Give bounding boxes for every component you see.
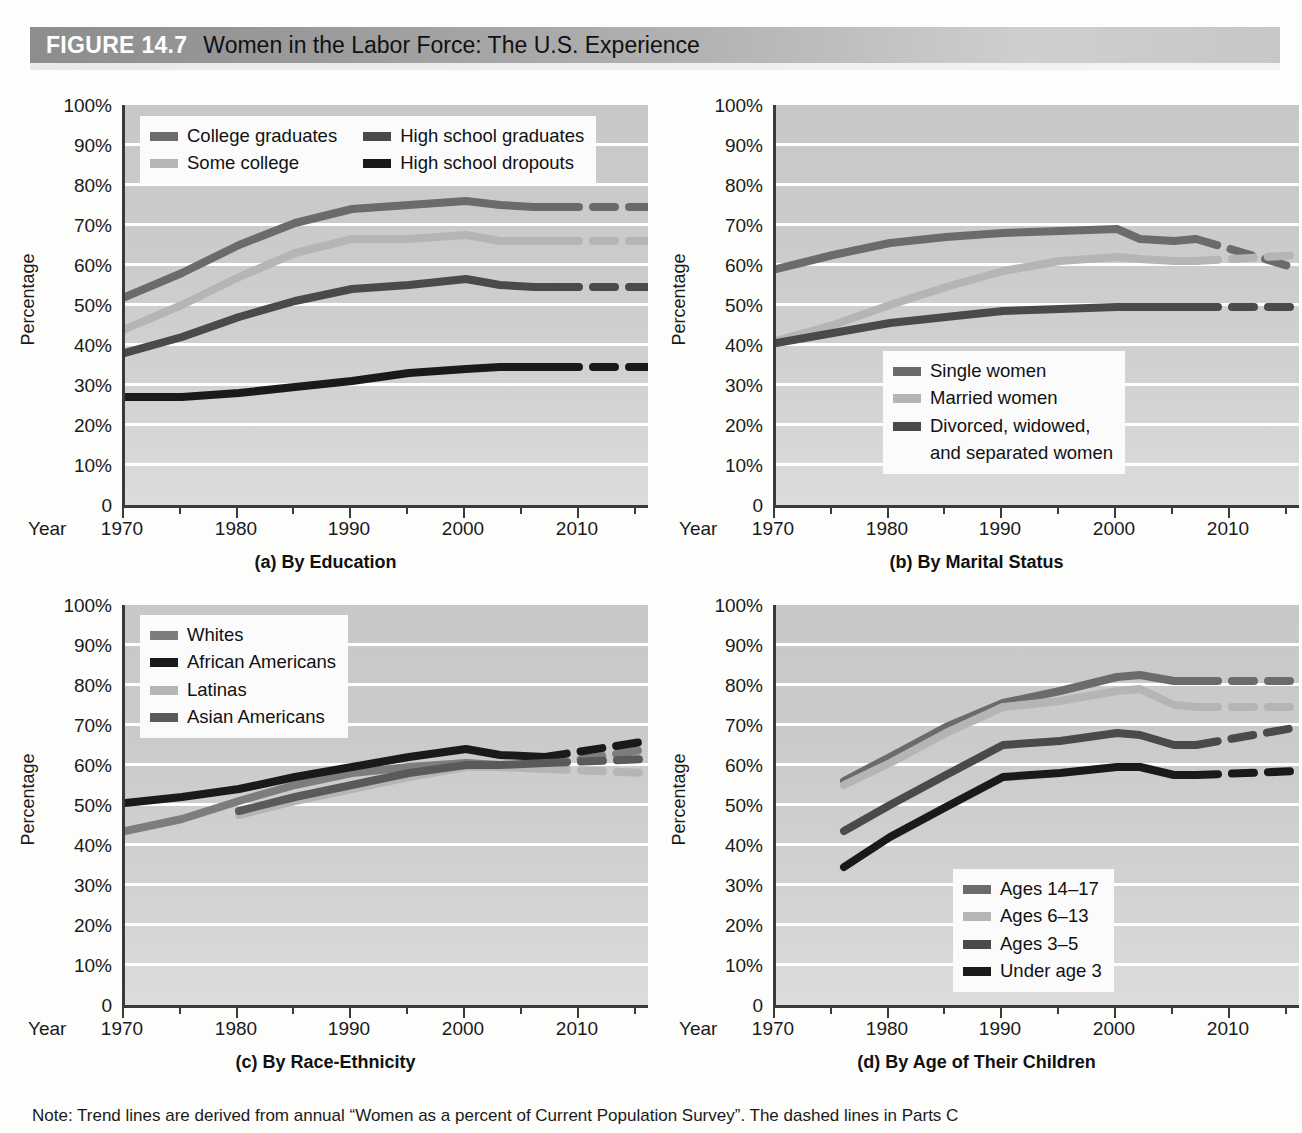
y-tick-a-40: 40%	[38, 335, 112, 357]
y-tick-d-10: 10%	[689, 955, 763, 977]
legend-item-college-graduates[interactable]: College graduates	[150, 124, 337, 148]
legend-item-latinas[interactable]: Latinas	[150, 678, 336, 702]
x-tickmark-c-1990	[349, 1005, 351, 1018]
x-tickmark-d-2015	[1285, 1005, 1287, 1014]
y-tick-b-100: 100%	[689, 95, 763, 117]
legend-item-ages-14-17[interactable]: Ages 14–17	[963, 877, 1102, 901]
x-tickmark-a-2015	[634, 505, 636, 514]
legend-swatch-ages-6-13	[963, 912, 991, 921]
x-tickmark-d-2005	[1171, 1005, 1173, 1014]
y-tick-a-10: 10%	[38, 455, 112, 477]
x-tick-d-1980: 1980	[852, 1018, 922, 1040]
y-tick-a-50: 50%	[38, 295, 112, 317]
legend-label-under-age-3: Under age 3	[1000, 959, 1102, 983]
x-tickmark-a-2000	[463, 505, 465, 518]
y-axis-label-d: Percentage	[669, 730, 690, 870]
x-tickmark-c-2010	[577, 1005, 579, 1018]
panel-caption-d: (d) By Age of Their Children	[651, 1052, 1302, 1073]
y-tick-d-70: 70%	[689, 715, 763, 737]
x-tickmark-d-2010	[1228, 1005, 1230, 1018]
legend-swatch-divorced-widowed-separated	[893, 422, 921, 431]
gridlines-a	[125, 143, 648, 466]
y-tick-b-20: 20%	[689, 415, 763, 437]
x-tick-c-2010: 2010	[542, 1018, 612, 1040]
x-tickmark-d-1980	[887, 1005, 889, 1018]
y-tick-d-0: 0	[689, 995, 763, 1017]
legend-swatch-some-college	[150, 159, 178, 168]
legend-label-ages-3-5: Ages 3–5	[1000, 932, 1078, 956]
x-tick-c-1990: 1990	[314, 1018, 384, 1040]
x-tick-a-1990: 1990	[314, 518, 384, 540]
y-axis-label-a: Percentage	[18, 230, 39, 370]
y-axis-label-b: Percentage	[669, 230, 690, 370]
x-tickmark-a-1970	[122, 505, 124, 518]
x-tick-a-1980: 1980	[201, 518, 271, 540]
legend-item-high-school-graduates[interactable]: High school graduates	[363, 124, 584, 148]
y-tick-b-80: 80%	[689, 175, 763, 197]
x-tick-a-2000: 2000	[428, 518, 498, 540]
y-tick-a-100: 100%	[38, 95, 112, 117]
y-tick-c-30: 30%	[38, 875, 112, 897]
legend-item-ages-3-5[interactable]: Ages 3–5	[963, 932, 1102, 956]
y-tick-d-60: 60%	[689, 755, 763, 777]
legend-swatch-latinas	[150, 686, 178, 695]
legend-panel-d: Ages 14–17 Ages 6–13 Ages 3–5 Under age …	[953, 869, 1114, 992]
legend-item-single-women[interactable]: Single women	[893, 359, 1113, 383]
y-tick-c-50: 50%	[38, 795, 112, 817]
y-tick-c-70: 70%	[38, 715, 112, 737]
legend-column-left-a: College graduates Some college	[150, 124, 337, 176]
legend-swatch-high-school-dropouts	[363, 159, 391, 168]
figure-note: Note: Trend lines are derived from annua…	[32, 1104, 1282, 1133]
y-tick-d-80: 80%	[689, 675, 763, 697]
legend-label-high-school-dropouts: High school dropouts	[400, 151, 574, 175]
legend-label-african-americans: African Americans	[187, 650, 336, 674]
x-tickmark-a-1985	[292, 505, 294, 514]
panels-grid: Percentage 100% 90% 80% 70% 60% 50% 40% …	[0, 74, 1302, 1074]
panel-d-by-age-of-children: Percentage 100% 90% 80% 70% 60% 50% 40% …	[651, 574, 1302, 1074]
legend-item-high-school-dropouts[interactable]: High school dropouts	[363, 151, 584, 175]
x-tickmark-b-1975	[830, 505, 832, 514]
y-tick-b-90: 90%	[689, 135, 763, 157]
x-tickmark-b-2015	[1285, 505, 1287, 514]
panel-b-by-marital-status: Percentage 100% 90% 80% 70% 60% 50% 40% …	[651, 74, 1302, 574]
legend-item-some-college[interactable]: Some college	[150, 151, 337, 175]
panel-c-by-race-ethnicity: Percentage 100% 90% 80% 70% 60% 50% 40% …	[0, 574, 651, 1074]
legend-label-divorced-widowed-separated: Divorced, widowed,	[930, 414, 1090, 438]
legend-item-divorced-widowed-separated[interactable]: Divorced, widowed,	[893, 414, 1113, 438]
legend-item-under-age-3[interactable]: Under age 3	[963, 959, 1102, 983]
legend-column-right-a: High school graduates High school dropou…	[363, 124, 584, 176]
y-tick-d-100: 100%	[689, 595, 763, 617]
y-tick-a-60: 60%	[38, 255, 112, 277]
y-tick-b-30: 30%	[689, 375, 763, 397]
legend-label-latinas: Latinas	[187, 678, 247, 702]
x-tickmark-b-2000	[1114, 505, 1116, 518]
legend-swatch-under-age-3	[963, 967, 991, 976]
figure-container: FIGURE 14.7 Women in the Labor Force: Th…	[0, 0, 1302, 1133]
legend-item-asian-americans[interactable]: Asian Americans	[150, 705, 336, 729]
series-d-under-age-3	[844, 767, 1299, 867]
legend-item-african-americans[interactable]: African Americans	[150, 650, 336, 674]
x-axis-label-c: Year	[28, 1018, 66, 1040]
y-tick-c-20: 20%	[38, 915, 112, 937]
title-underline	[30, 63, 1280, 70]
legend-item-divorced-line2: and separated women	[893, 441, 1113, 465]
x-tick-c-1970: 1970	[87, 1018, 157, 1040]
x-tickmark-c-1985	[292, 1005, 294, 1014]
y-tick-c-60: 60%	[38, 755, 112, 777]
y-tick-c-10: 10%	[38, 955, 112, 977]
y-axis-label-c: Percentage	[18, 730, 39, 870]
legend-item-ages-6-13[interactable]: Ages 6–13	[963, 904, 1102, 928]
x-axis-label-a: Year	[28, 518, 66, 540]
x-tick-a-2010: 2010	[542, 518, 612, 540]
y-tick-b-70: 70%	[689, 215, 763, 237]
legend-swatch-ages-14-17	[963, 885, 991, 894]
legend-swatch-african-americans	[150, 658, 178, 667]
y-tick-a-0: 0	[38, 495, 112, 517]
legend-swatch-college-graduates	[150, 132, 178, 141]
legend-swatch-asian-americans	[150, 713, 178, 722]
x-tick-d-2000: 2000	[1079, 1018, 1149, 1040]
panel-a-by-education: Percentage 100% 90% 80% 70% 60% 50% 40% …	[0, 74, 651, 574]
legend-item-whites[interactable]: Whites	[150, 623, 336, 647]
y-tick-b-40: 40%	[689, 335, 763, 357]
legend-item-married-women[interactable]: Married women	[893, 386, 1113, 410]
